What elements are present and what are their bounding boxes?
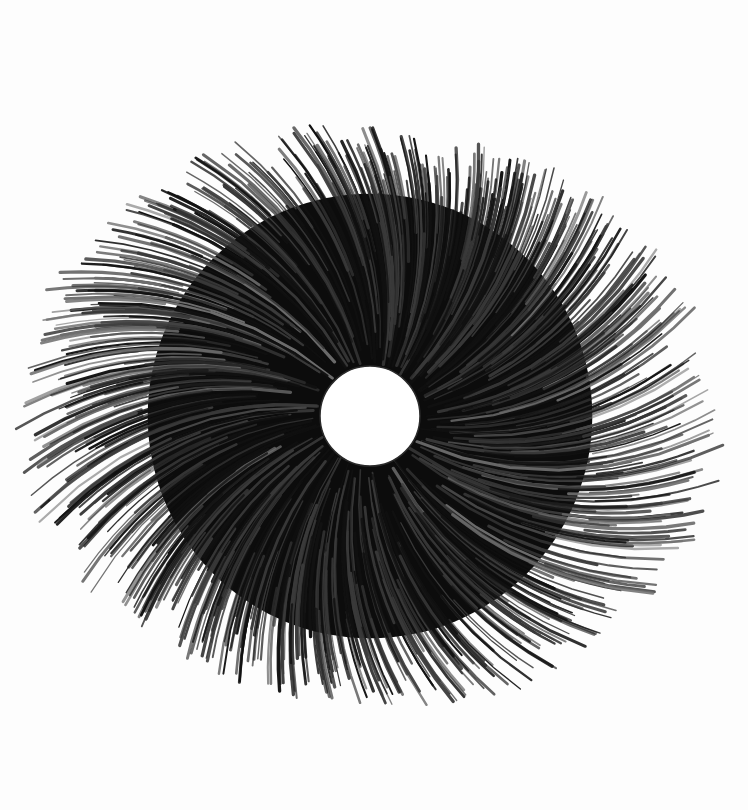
- white-center-circle: [320, 366, 420, 466]
- paper-background: [0, 0, 748, 810]
- swirl-drawing: [0, 0, 748, 810]
